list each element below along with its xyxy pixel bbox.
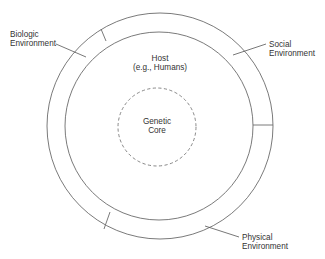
- label-biologic-environment: Biologic Environment: [10, 30, 57, 48]
- label-biologic-line1: Biologic: [10, 30, 39, 39]
- label-social-environment: Social Environment: [269, 40, 316, 58]
- label-physical-line2: Environment: [242, 242, 289, 251]
- leader-line-biologic: [56, 44, 86, 57]
- label-genetic-core: Genetic Core: [143, 117, 171, 135]
- leader-line-physical: [205, 226, 239, 237]
- epidemiologic-wheel-diagram: Biologic Environment Social Environment …: [0, 0, 325, 259]
- label-social-line2: Environment: [269, 49, 316, 58]
- label-core-line2: Core: [148, 126, 166, 135]
- label-physical-environment: Physical Environment: [242, 233, 289, 251]
- label-core-line1: Genetic: [143, 117, 171, 126]
- divider-biologic-social: [101, 29, 106, 41]
- label-biologic-line2: Environment: [10, 39, 57, 48]
- label-host-line2: (e.g., Humans): [133, 63, 187, 72]
- label-host-line1: Host: [152, 54, 170, 63]
- label-host: Host (e.g., Humans): [133, 54, 187, 72]
- label-social-line1: Social: [269, 40, 291, 49]
- label-physical-line1: Physical: [242, 233, 273, 242]
- leader-line-social: [233, 44, 266, 55]
